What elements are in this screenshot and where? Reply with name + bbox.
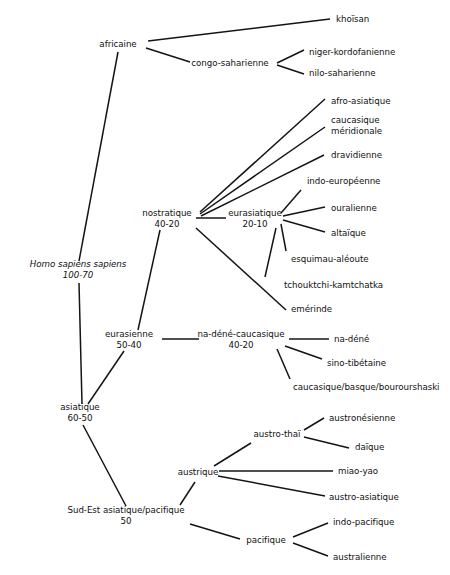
- tree-node-name-eurasiatique: eurasiatique: [228, 208, 282, 219]
- tree-node-daique[interactable]: daïque: [355, 442, 384, 453]
- tree-node-caucmer[interactable]: caucasique méridionale: [331, 115, 382, 136]
- tree-edge-austrothai-to-austronesien: [304, 418, 324, 430]
- tree-node-date-nostratique: 40-20: [142, 219, 191, 230]
- tree-edge-congosah-to-nilosah: [277, 65, 304, 74]
- tree-node-name-austronesien: austronésienne: [329, 413, 395, 424]
- tree-node-caucbasque[interactable]: caucasique/basque/bourourshaski: [293, 382, 439, 393]
- tree-edge-eurasiatique-to-altaique: [283, 220, 325, 232]
- tree-node-name-sinotib: sino-tibétaine: [327, 358, 386, 369]
- tree-edge-africaine-to-congosah: [146, 48, 190, 62]
- tree-node-name-nilosah: nilo-saharienne: [309, 68, 376, 79]
- tree-node-name-caucmer: caucasique méridionale: [331, 115, 382, 136]
- phylogenetic-tree-diagram: Homo sapiens sapiens100-70africainekhoïs…: [0, 0, 450, 575]
- tree-node-nigerkord[interactable]: niger-kordofanienne: [309, 47, 395, 58]
- tree-edge-austrique-to-austroasia: [218, 476, 325, 496]
- tree-node-nilosah[interactable]: nilo-saharienne: [309, 68, 376, 79]
- tree-node-name-asiatique: asiatique: [60, 402, 99, 413]
- tree-edge-congosah-to-nigerkord: [277, 50, 304, 63]
- tree-edge-eurasiatique-to-indoeuro: [281, 190, 301, 213]
- tree-node-name-congosah: congo-saharienne: [191, 58, 268, 69]
- tree-edge-austrothai-to-daique: [304, 437, 349, 448]
- tree-node-tchouktchi[interactable]: tchouktchi-kamtchatka: [284, 280, 383, 291]
- tree-node-indoeuro[interactable]: indo-européenne: [307, 176, 380, 187]
- tree-node-congosah[interactable]: congo-saharienne: [191, 58, 268, 69]
- tree-node-name-australienne: australienne: [333, 552, 387, 563]
- tree-edge-pacifique-to-indopac: [293, 523, 328, 537]
- tree-edge-sudest-to-austrique: [180, 482, 195, 505]
- tree-node-name-khoisan: khoïsan: [336, 14, 369, 25]
- tree-node-name-nigerkord: niger-kordofanienne: [309, 47, 395, 58]
- tree-edge-africaine-to-hss: [79, 52, 118, 261]
- tree-node-name-ouralienne: ouralienne: [331, 203, 377, 214]
- tree-node-name-austroasia: austro-asiatique: [329, 492, 399, 503]
- tree-node-name-altaique: altaïque: [331, 228, 366, 239]
- tree-node-hss[interactable]: Homo sapiens sapiens100-70: [30, 259, 126, 280]
- tree-node-esquimau[interactable]: esquimau-aléoute: [291, 254, 369, 265]
- tree-node-sinotib[interactable]: sino-tibétaine: [327, 358, 386, 369]
- tree-node-africaine[interactable]: africaine: [99, 39, 136, 50]
- tree-node-name-caucbasque: caucasique/basque/bourourshaski: [293, 382, 439, 393]
- tree-node-name-afroasia: afro-asiatique: [331, 96, 390, 107]
- tree-edge-eurasiatique-to-tchouktchi: [265, 228, 276, 277]
- tree-node-name-sudest: Sud-Est asiatique/pacifique: [67, 505, 184, 516]
- tree-node-indopac[interactable]: indo-pacifique: [333, 517, 394, 528]
- tree-node-date-eurasienne: 50-40: [105, 340, 153, 351]
- tree-edge-asiatique-to-sudest: [83, 425, 126, 506]
- tree-node-dravidienne[interactable]: dravidienne: [331, 150, 382, 161]
- tree-node-date-nadenecauc: 40-20: [198, 340, 285, 351]
- tree-edge-sudest-to-pacifique: [190, 524, 240, 539]
- tree-node-eurasiatique[interactable]: eurasiatique20-10: [228, 208, 282, 229]
- tree-node-date-sudest: 50: [67, 516, 184, 527]
- tree-edge-africaine-to-khoisan: [148, 19, 330, 41]
- tree-node-sudest[interactable]: Sud-Est asiatique/pacifique50: [67, 505, 184, 526]
- tree-node-name-esquimau: esquimau-aléoute: [291, 254, 369, 265]
- tree-node-name-emerinde: emérinde: [291, 304, 332, 315]
- tree-edge-austrique-to-austrothai: [214, 443, 251, 466]
- tree-edge-nostratique-to-afroasia: [200, 99, 325, 212]
- tree-node-name-nadenecauc: na-déné-caucasique: [198, 329, 285, 340]
- tree-node-nadene[interactable]: na-déné: [334, 334, 369, 345]
- tree-node-name-dravidienne: dravidienne: [331, 150, 382, 161]
- tree-node-name-austrothai: austro-thaï: [254, 429, 301, 440]
- tree-node-khoisan[interactable]: khoïsan: [336, 14, 369, 25]
- tree-node-pacifique[interactable]: pacifique: [246, 535, 285, 546]
- tree-node-name-austrique: austrique: [178, 467, 219, 478]
- tree-node-austrothai[interactable]: austro-thaï: [254, 429, 301, 440]
- tree-node-name-miaoyao: miao-yao: [338, 466, 378, 477]
- tree-node-miaoyao[interactable]: miao-yao: [338, 466, 378, 477]
- tree-edge-eurasiatique-to-ouralienne: [283, 207, 325, 216]
- tree-node-nostratique[interactable]: nostratique40-20: [142, 208, 191, 229]
- tree-node-ouralienne[interactable]: ouralienne: [331, 203, 377, 214]
- tree-node-name-eurasienne: eurasienne: [105, 329, 153, 340]
- tree-edge-nostratique-to-dravidienne: [201, 155, 324, 216]
- tree-node-name-africaine: africaine: [99, 39, 136, 50]
- tree-edge-pacifique-to-australienne: [293, 543, 328, 556]
- tree-edge-hss-to-asiatique: [79, 283, 82, 404]
- tree-edge-nostratique-to-eurasienne: [138, 230, 160, 330]
- tree-node-date-asiatique: 60-50: [60, 413, 99, 424]
- tree-node-asiatique[interactable]: asiatique60-50: [60, 402, 99, 423]
- tree-edge-nadenecauc-to-caucbasque: [277, 349, 290, 379]
- tree-node-eurasienne[interactable]: eurasienne50-40: [105, 329, 153, 350]
- tree-node-emerinde[interactable]: emérinde: [291, 304, 332, 315]
- tree-edge-nadenecauc-to-sinotib: [285, 346, 322, 359]
- tree-node-name-hss: Homo sapiens sapiens: [30, 259, 126, 270]
- tree-node-name-daique: daïque: [355, 442, 384, 453]
- tree-node-name-tchouktchi: tchouktchi-kamtchatka: [284, 280, 383, 291]
- tree-node-austroasia[interactable]: austro-asiatique: [329, 492, 399, 503]
- tree-node-austrique[interactable]: austrique: [178, 467, 219, 478]
- tree-node-name-nostratique: nostratique: [142, 208, 191, 219]
- tree-node-afroasia[interactable]: afro-asiatique: [331, 96, 390, 107]
- tree-node-date-eurasiatique: 20-10: [228, 219, 282, 230]
- tree-node-australienne[interactable]: australienne: [333, 552, 387, 563]
- tree-edge-eurasienne-to-asiatique: [88, 351, 124, 404]
- tree-node-austronesien[interactable]: austronésienne: [329, 413, 395, 424]
- tree-edge-nostratique-to-caucmer: [200, 127, 325, 214]
- tree-node-nadenecauc[interactable]: na-déné-caucasique40-20: [198, 329, 285, 350]
- tree-node-name-indopac: indo-pacifique: [333, 517, 394, 528]
- tree-node-name-pacifique: pacifique: [246, 535, 285, 546]
- tree-node-name-nadene: na-déné: [334, 334, 369, 345]
- tree-node-altaique[interactable]: altaïque: [331, 228, 366, 239]
- tree-node-name-indoeuro: indo-européenne: [307, 176, 380, 187]
- tree-node-date-hss: 100-70: [30, 270, 126, 281]
